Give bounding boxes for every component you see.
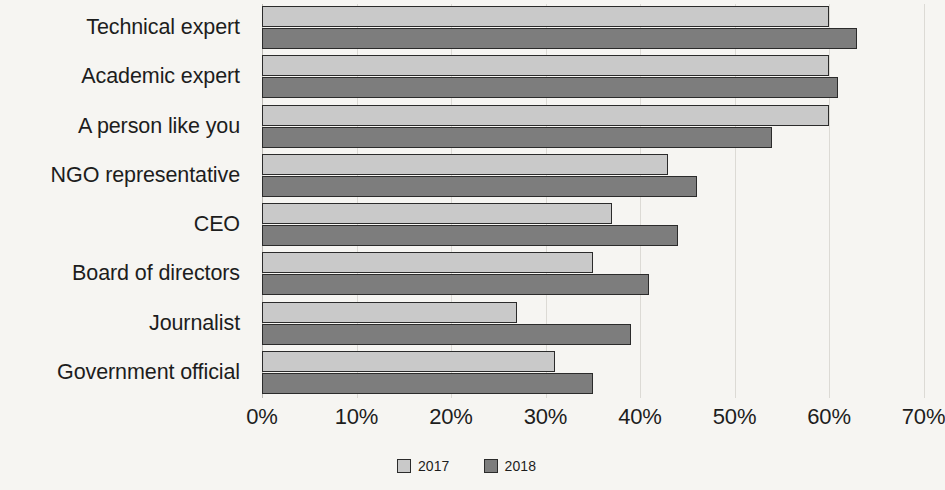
bar-2017[interactable] [262,55,829,76]
gridline-70 [924,4,925,398]
chart-legend: 20172018 [0,452,933,480]
x-tick-label: 30% [524,404,567,430]
gridline-60 [829,4,830,398]
value-axis-tick-labels: 0%10%20%30%40%50%60%70% [0,404,933,444]
category-label: NGO representative [51,150,240,200]
legend-item[interactable]: 2017 [397,458,450,474]
plot-area [262,4,933,398]
legend-item[interactable]: 2018 [484,458,537,474]
x-tick-label: 10% [335,404,378,430]
bar-2017[interactable] [262,105,829,126]
category-label: Academic expert [81,51,240,101]
legend-swatch-2018-icon [484,459,498,473]
bar-2017[interactable] [262,203,612,224]
bar-2017[interactable] [262,351,555,372]
category-label: Technical expert [86,2,240,52]
bar-2018[interactable] [262,28,857,49]
legend-label: 2018 [505,458,537,474]
x-tick-label: 50% [713,404,756,430]
x-tick-label: 20% [429,404,472,430]
bar-2017[interactable] [262,154,668,175]
x-tick-label: 70% [902,404,945,430]
bar-2017[interactable] [262,6,829,27]
legend-label: 2017 [418,458,450,474]
category-label: Journalist [149,298,240,348]
x-tick-label: 0% [246,404,277,430]
bar-2018[interactable] [262,225,678,246]
bar-2018[interactable] [262,324,631,345]
category-label: A person like you [78,101,240,151]
bar-2018[interactable] [262,77,838,98]
bar-2017[interactable] [262,302,517,323]
category-label: Government official [57,347,240,397]
bar-2017[interactable] [262,252,593,273]
x-tick-label: 40% [618,404,661,430]
bar-2018[interactable] [262,176,697,197]
category-label: Board of directors [72,248,240,298]
category-axis-labels: Technical expertAcademic expertA person … [0,0,252,404]
bar-2018[interactable] [262,127,772,148]
bar-2018[interactable] [262,274,649,295]
x-tick-label: 60% [807,404,850,430]
plot-wrapper: Technical expertAcademic expertA person … [0,0,933,404]
category-label: CEO [194,199,240,249]
bar-2018[interactable] [262,373,593,394]
legend-swatch-2017-icon [397,459,411,473]
